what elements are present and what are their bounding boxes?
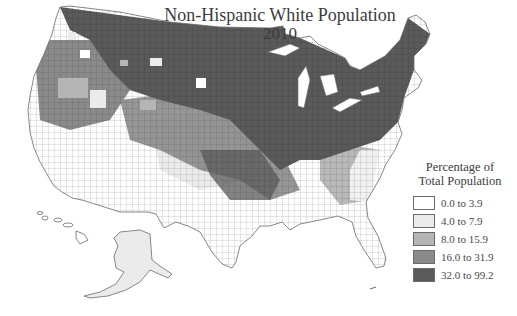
legend-swatch: [413, 250, 435, 264]
legend-label: 16.0 to 31.9: [441, 251, 494, 263]
legend-title-line2: Total Population: [405, 174, 515, 188]
legend-rows: 0.0 to 3.94.0 to 7.98.0 to 15.916.0 to 3…: [405, 194, 515, 284]
map-title: Non-Hispanic White Population: [150, 6, 410, 25]
legend-item: 0.0 to 3.9: [405, 194, 515, 212]
legend-swatch: [413, 214, 435, 228]
legend-label: 8.0 to 15.9: [441, 233, 488, 245]
legend-title-line1: Percentage of: [405, 160, 515, 174]
legend-swatch: [413, 232, 435, 246]
legend-label: 0.0 to 3.9: [441, 197, 483, 209]
legend-swatch: [413, 268, 435, 282]
alaska-inset: [84, 230, 172, 298]
legend-label: 4.0 to 7.9: [441, 215, 483, 227]
legend-item: 16.0 to 31.9: [405, 248, 515, 266]
legend-item: 4.0 to 7.9: [405, 212, 515, 230]
map-subtitle-year: 2010: [150, 25, 410, 43]
legend-label: 32.0 to 99.2: [441, 269, 494, 281]
legend-item: 8.0 to 15.9: [405, 230, 515, 248]
legend-swatch: [413, 196, 435, 210]
legend: Percentage of Total Population 0.0 to 3.…: [405, 160, 515, 284]
florida-keys: [370, 287, 376, 289]
hawaii-inset: [37, 212, 88, 245]
legend-item: 32.0 to 99.2: [405, 266, 515, 284]
legend-title: Percentage of Total Population: [405, 160, 515, 188]
